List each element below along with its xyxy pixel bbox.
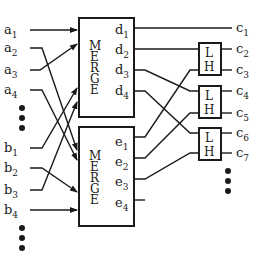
comparator-2: L H: [199, 86, 221, 118]
label-c7: c7: [236, 145, 249, 163]
merge-top-letter: E: [90, 83, 99, 97]
ellipsis-c-icon: [225, 168, 231, 194]
label-a1: a1: [4, 22, 18, 40]
label-c2: c2: [236, 41, 249, 59]
ellipsis-b-icon: [19, 225, 25, 251]
comparator-low-label: L: [205, 46, 213, 60]
label-c6: c6: [236, 125, 249, 143]
comparator-high-label: H: [204, 60, 214, 74]
output-wires: [221, 49, 232, 153]
merge-network-diagram: a1 a2 a3 a4 b1 b2 b3 b4 M E R G E: [0, 0, 262, 268]
label-b2: b2: [4, 160, 18, 178]
input-wires: [30, 30, 77, 210]
comparator-low-label: L: [205, 89, 213, 103]
comparator-high-label: H: [204, 145, 214, 159]
label-a2: a2: [4, 40, 18, 58]
label-b4: b4: [4, 202, 18, 220]
wire-d3-lh2: [134, 70, 199, 91]
output-labels-c: c1 c2 c3 c4 c5 c6 c7: [236, 20, 249, 163]
label-b3: b3: [4, 182, 18, 200]
merge-box-bottom: M E R G E e1 e2 e3 e4: [79, 127, 134, 226]
ellipsis-a-icon: [19, 105, 25, 131]
comparator-1: L H: [199, 43, 221, 75]
input-labels-b: b1 b2 b3 b4: [4, 140, 18, 220]
merge-box-top: M E R G E d1 d2 d3 d4: [79, 18, 134, 117]
merge-bottom-letter: E: [90, 193, 99, 207]
input-labels-a: a1 a2 a3 a4: [4, 22, 18, 100]
comparator-3: L H: [199, 128, 221, 160]
wire-d4-lh3: [134, 91, 199, 133]
label-a4: a4: [4, 82, 18, 100]
label-c3: c3: [236, 62, 249, 80]
wire-e2-lh2: [134, 113, 199, 158]
label-c1: c1: [236, 20, 249, 38]
wire-e3-lh3: [134, 153, 199, 179]
label-a3: a3: [4, 62, 18, 80]
label-b1: b1: [4, 140, 18, 158]
comparator-high-label: H: [204, 103, 214, 117]
label-c5: c5: [236, 105, 249, 123]
wire-b2: [30, 168, 77, 192]
comparator-low-label: L: [205, 131, 213, 145]
label-c4: c4: [236, 83, 249, 101]
